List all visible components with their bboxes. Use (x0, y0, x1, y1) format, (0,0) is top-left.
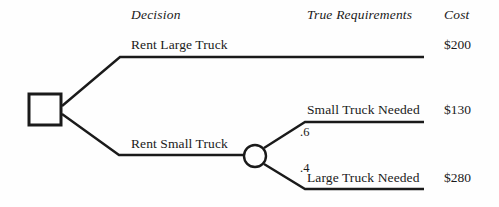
cost-value-rent-large-truck: $200 (444, 38, 471, 52)
probability-label-small-truck-needed: .6 (300, 126, 309, 139)
column-header-true-requirements: True Requirements (307, 8, 412, 22)
outcome-label-small-truck-needed[interactable]: Small Truck Needed (307, 103, 420, 117)
cost-value-large-truck-needed: $280 (444, 171, 471, 185)
chance-node-circle[interactable] (244, 145, 266, 167)
outcome-label-large-truck-needed[interactable]: Large Truck Needed (307, 171, 420, 185)
column-header-cost: Cost (444, 8, 470, 22)
decision-node-square[interactable] (29, 94, 61, 125)
tree-branch-lines (0, 0, 499, 207)
branch-line-small-truck-needed (264, 122, 424, 148)
probability-label-large-truck-needed: .4 (300, 162, 309, 175)
column-header-decision: Decision (131, 8, 181, 22)
branch-label-rent-large-truck[interactable]: Rent Large Truck (131, 38, 228, 52)
branch-label-rent-small-truck[interactable]: Rent Small Truck (131, 137, 228, 151)
branch-line-rent-large-truck (62, 57, 424, 106)
cost-value-small-truck-needed: $130 (444, 103, 471, 117)
decision-tree-diagram: Decision True Requirements Cost Rent Lar… (0, 0, 499, 207)
